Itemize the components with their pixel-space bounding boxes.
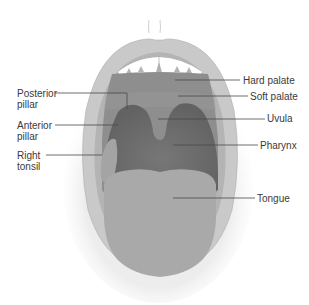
label-anterior-pillar: Anterior pillar xyxy=(17,120,52,142)
label-pharynx: Pharynx xyxy=(260,140,297,151)
philtrum-line-left xyxy=(149,20,150,33)
label-soft-palate: Soft palate xyxy=(250,91,298,102)
label-posterior-pillar: Posterior pillar xyxy=(17,88,57,110)
label-uvula: Uvula xyxy=(267,113,293,124)
label-right-tonsil: Right tonsil xyxy=(17,150,40,172)
label-hard-palate: Hard palate xyxy=(243,75,295,86)
label-tongue: Tongue xyxy=(257,193,290,204)
tongue-shape xyxy=(104,169,216,277)
philtrum-line-right xyxy=(160,20,161,33)
mouth-illustration xyxy=(0,0,309,305)
mouth-anatomy-diagram: Posterior pillar Anterior pillar Right t… xyxy=(0,0,309,305)
